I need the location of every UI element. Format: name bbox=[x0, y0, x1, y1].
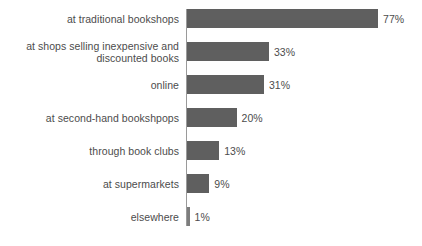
bar-value-label: 77% bbox=[383, 13, 404, 25]
bar bbox=[187, 75, 264, 94]
bar-chart: at traditional bookshops 77% at shops se… bbox=[0, 0, 422, 246]
bar-area: 1% bbox=[187, 207, 210, 226]
bar-value-label: 33% bbox=[274, 46, 295, 58]
bar-value-label: 13% bbox=[224, 145, 245, 157]
chart-row: online 31% bbox=[0, 75, 422, 94]
bar bbox=[187, 207, 190, 226]
bar-value-label: 20% bbox=[242, 112, 263, 124]
bar-area: 13% bbox=[187, 141, 245, 160]
category-label: at shops selling inexpensive and discoun… bbox=[0, 39, 179, 64]
bar-area: 9% bbox=[187, 174, 230, 193]
bar bbox=[187, 108, 237, 127]
category-label: at traditional bookshops bbox=[0, 12, 179, 25]
bar-value-label: 31% bbox=[269, 79, 290, 91]
chart-row: at shops selling inexpensive and discoun… bbox=[0, 42, 422, 61]
category-label: at supermarkets bbox=[0, 177, 179, 190]
bar-area: 20% bbox=[187, 108, 263, 127]
chart-rows: at traditional bookshops 77% at shops se… bbox=[0, 9, 422, 240]
bar bbox=[187, 141, 219, 160]
bar bbox=[187, 9, 378, 28]
bar-area: 33% bbox=[187, 42, 295, 61]
chart-row: through book clubs 13% bbox=[0, 141, 422, 160]
category-label: at second-hand bookshpops bbox=[0, 111, 179, 124]
bar bbox=[187, 174, 209, 193]
category-label: through book clubs bbox=[0, 144, 179, 157]
chart-row: at second-hand bookshpops 20% bbox=[0, 108, 422, 127]
chart-row: at supermarkets 9% bbox=[0, 174, 422, 193]
bar-value-label: 1% bbox=[195, 211, 210, 223]
bar-area: 31% bbox=[187, 75, 290, 94]
category-label: online bbox=[0, 78, 179, 91]
bar-area: 77% bbox=[187, 9, 404, 28]
bar bbox=[187, 42, 269, 61]
bar-value-label: 9% bbox=[214, 178, 229, 190]
category-label: elsewhere bbox=[0, 210, 179, 223]
chart-row: elsewhere 1% bbox=[0, 207, 422, 226]
chart-row: at traditional bookshops 77% bbox=[0, 9, 422, 28]
